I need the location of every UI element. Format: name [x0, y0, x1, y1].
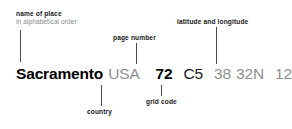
leader-line-name-of-place — [20, 30, 21, 62]
entry-latitude-minutes-direction: 32N — [236, 64, 264, 84]
gazetteer-entry-diagram: name of place in alphabetical order page… — [0, 0, 292, 129]
callout-page-number: page number — [113, 34, 156, 42]
callout-country: country — [87, 108, 112, 116]
callout-country-title: country — [87, 108, 112, 116]
callout-grid-code-title: grid code — [146, 98, 177, 106]
callout-latitude-longitude-title: latitude and longitude — [177, 18, 248, 26]
callout-name-of-place-title: name of place — [16, 10, 77, 18]
callout-grid-code: grid code — [146, 98, 177, 106]
gazetteer-entry-row: Sacramento USA 72 C5 38 32N 121 30W — [16, 64, 292, 84]
entry-latitude-degrees: 38 — [214, 64, 231, 84]
entry-page-number: 72 — [156, 64, 173, 84]
callout-name-of-place-subtitle: in alphabetical order — [16, 18, 77, 26]
entry-grid-code: C5 — [184, 64, 204, 84]
callout-name-of-place: name of place in alphabetical order — [16, 10, 77, 26]
callout-latitude-longitude: latitude and longitude — [177, 18, 248, 26]
callout-page-number-title: page number — [113, 34, 156, 42]
entry-longitude-degrees: 121 — [275, 64, 292, 84]
entry-country-code: USA — [108, 64, 139, 84]
leader-line-latitude-longitude — [216, 27, 217, 64]
entry-place-name: Sacramento — [16, 64, 103, 84]
leader-line-page-number — [136, 43, 137, 64]
leader-line-grid-code — [161, 85, 162, 96]
leader-line-country — [101, 85, 102, 106]
